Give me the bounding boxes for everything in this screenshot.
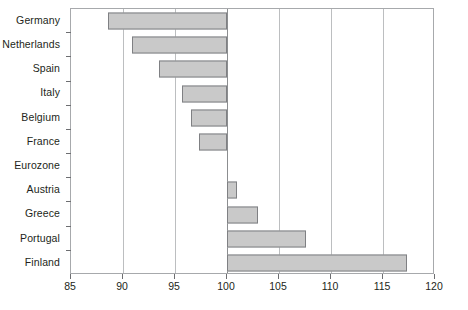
x-axis-tick	[382, 274, 383, 279]
y-axis-tick	[66, 201, 71, 202]
category-axis: GermanyNetherlandsSpainItalyBelgiumFranc…	[0, 8, 64, 274]
x-axis-tick	[434, 274, 435, 279]
category-label: Netherlands	[0, 32, 64, 56]
category-label: Germany	[0, 8, 64, 32]
bar-row	[71, 251, 433, 275]
y-axis-tick	[66, 226, 71, 227]
y-axis-tick	[66, 81, 71, 82]
y-axis-tick	[66, 153, 71, 154]
bar	[199, 133, 227, 150]
x-axis-tick-label: 105	[269, 281, 287, 292]
y-axis-tick	[66, 56, 71, 57]
bar	[227, 254, 407, 271]
bar	[132, 37, 227, 54]
bar-chart: GermanyNetherlandsSpainItalyBelgiumFranc…	[0, 0, 468, 310]
bar	[182, 85, 227, 102]
category-label: Belgium	[0, 105, 64, 129]
bar-row	[71, 57, 433, 81]
value-axis: 859095100105110115120	[0, 281, 468, 301]
category-label: Eurozone	[0, 153, 64, 177]
category-label: Portugal	[0, 226, 64, 250]
y-axis-tick	[66, 129, 71, 130]
x-axis-tick-label: 120	[425, 281, 443, 292]
x-axis-tick	[70, 274, 71, 279]
x-axis-tick-label: 115	[374, 281, 391, 292]
bar-row	[71, 106, 433, 130]
bar	[108, 13, 227, 30]
x-axis-tick-label: 100	[217, 281, 235, 292]
bar	[227, 206, 258, 223]
category-label: Greece	[0, 202, 64, 226]
x-axis-tick-label: 85	[64, 281, 76, 292]
y-axis-tick	[66, 177, 71, 178]
plot-area	[70, 8, 434, 274]
bar	[227, 230, 306, 247]
x-axis-tick-label: 95	[168, 281, 180, 292]
y-axis-tick	[66, 105, 71, 106]
bar-row	[71, 227, 433, 251]
bar-row	[71, 202, 433, 226]
y-axis-tick	[66, 250, 71, 251]
bar	[159, 61, 227, 78]
y-axis-tick	[66, 32, 71, 33]
bars-layer	[71, 9, 433, 273]
x-axis-tick	[122, 274, 123, 279]
category-label: Finland	[0, 250, 64, 274]
x-axis-tick-label: 90	[116, 281, 128, 292]
x-axis-tick	[174, 274, 175, 279]
x-axis-tick	[330, 274, 331, 279]
bar	[191, 109, 227, 126]
bar-row	[71, 9, 433, 33]
x-axis-tick	[226, 274, 227, 279]
category-label: Italy	[0, 81, 64, 105]
bar-row	[71, 82, 433, 106]
x-axis-tick-label: 110	[322, 281, 339, 292]
category-label: France	[0, 129, 64, 153]
category-label: Austria	[0, 177, 64, 201]
bar-row	[71, 154, 433, 178]
bar-row	[71, 130, 433, 154]
bar	[227, 182, 237, 199]
category-label: Spain	[0, 56, 64, 80]
x-axis-tick	[278, 274, 279, 279]
bar-row	[71, 33, 433, 57]
bar-row	[71, 178, 433, 202]
